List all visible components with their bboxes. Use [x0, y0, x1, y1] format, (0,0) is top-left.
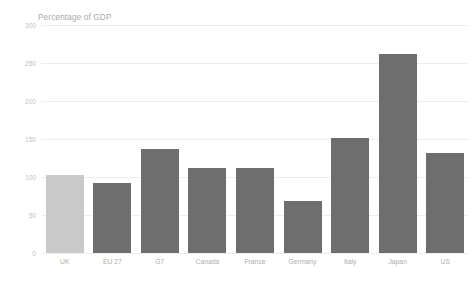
bar-canada[interactable]: [188, 168, 226, 253]
bar-france[interactable]: [236, 168, 274, 253]
y-axis-tick-label: 100: [0, 174, 36, 181]
x-axis-tick-label: US: [422, 258, 468, 265]
y-axis-tick-label: 250: [0, 60, 36, 67]
bar-chart: Percentage of GDP 050100150200250300 UKE…: [0, 0, 476, 283]
bar-uk[interactable]: [46, 175, 84, 253]
x-axis-tick-label: Italy: [327, 258, 373, 265]
bar-g7[interactable]: [141, 149, 179, 253]
x-axis: UKEU 27G7CanadaFranceGermanyItalyJapanUS: [41, 258, 469, 272]
y-axis: 050100150200250300: [0, 25, 36, 253]
gridline: [41, 253, 469, 254]
plot-area: [41, 25, 469, 253]
bar-italy[interactable]: [331, 138, 369, 253]
x-axis-tick-label: EU 27: [89, 258, 135, 265]
y-axis-tick-label: 50: [0, 212, 36, 219]
y-axis-tick-label: 0: [0, 250, 36, 257]
x-axis-tick-label: G7: [137, 258, 183, 265]
y-axis-tick-label: 150: [0, 136, 36, 143]
bar-eu-27[interactable]: [93, 183, 131, 253]
y-axis-tick-label: 300: [0, 22, 36, 29]
gridline: [41, 25, 469, 26]
x-axis-tick-label: Canada: [184, 258, 230, 265]
y-axis-tick-label: 200: [0, 98, 36, 105]
x-axis-tick-label: UK: [42, 258, 88, 265]
x-axis-tick-label: Germany: [280, 258, 326, 265]
bar-germany[interactable]: [284, 201, 322, 253]
x-axis-tick-label: Japan: [375, 258, 421, 265]
chart-title: Percentage of GDP: [38, 13, 112, 22]
x-axis-tick-label: France: [232, 258, 278, 265]
bar-japan[interactable]: [379, 54, 417, 253]
bar-us[interactable]: [426, 153, 464, 253]
